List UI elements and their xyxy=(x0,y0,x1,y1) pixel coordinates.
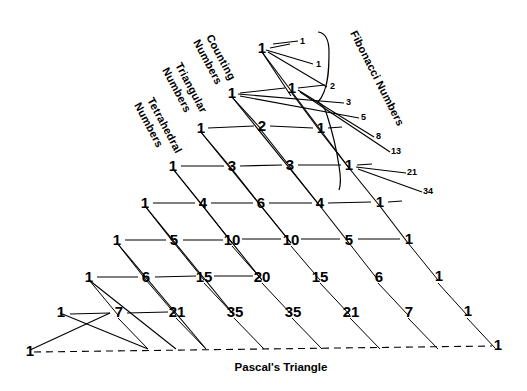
diagonal-label-fibonacci: Fibonacci Numbers xyxy=(348,28,407,127)
pascal-cell: 4 xyxy=(199,194,208,211)
pascal-cell: 2 xyxy=(258,117,266,134)
fibonacci-value: 1 xyxy=(300,36,305,46)
pascal-cell: 1 xyxy=(464,302,472,319)
pascal-cell: 21 xyxy=(343,303,360,320)
fibonacci-value: 1 xyxy=(316,59,321,69)
pascal-cell: 3 xyxy=(228,157,236,174)
pascal-cell: 35 xyxy=(285,303,302,320)
diagonal-label-counting: Counting Numbers xyxy=(191,32,238,86)
pascals-triangle-figure: 1 1 2 3 5 8 13 21 34 1 1 1 1 2 1 1 3 3 1 xyxy=(0,0,527,391)
fibonacci-value: 3 xyxy=(346,97,351,107)
pascal-cell: 1 xyxy=(376,193,384,210)
pascal-cell: 5 xyxy=(345,231,353,248)
pascal-row-2: 1 2 1 xyxy=(197,117,325,136)
pascal-row-6: 1 6 15 20 15 6 1 xyxy=(85,267,443,285)
pascal-cell: 1 xyxy=(258,39,266,56)
pascal-row-8: 1 1 xyxy=(26,336,502,359)
fibonacci-value: 5 xyxy=(361,112,366,122)
pascal-cell: 1 xyxy=(197,119,205,136)
pascal-cell: 6 xyxy=(142,268,150,285)
pascal-cell: 15 xyxy=(312,268,329,285)
pascal-cell: 1 xyxy=(405,230,413,247)
pascal-cell: 1 xyxy=(85,268,93,285)
fibonacci-value: 8 xyxy=(376,131,381,141)
pascal-cell: 1 xyxy=(288,79,296,96)
triangle-diagram: 1 1 2 3 5 8 13 21 34 1 1 1 1 2 1 1 3 3 1 xyxy=(0,0,527,391)
pascal-cell: 10 xyxy=(283,231,300,248)
pascal-cell: 1 xyxy=(141,194,149,211)
pascal-cell: 1 xyxy=(228,84,236,101)
diagonal-label-triangular: Triangular Numbers xyxy=(160,60,210,115)
fibonacci-value: 21 xyxy=(407,167,417,177)
pascal-cell: 5 xyxy=(170,231,178,248)
pascal-cell: 1 xyxy=(435,267,443,284)
base-dashed-line xyxy=(34,346,492,352)
pascal-cell: 1 xyxy=(317,119,325,136)
fibonacci-value: 13 xyxy=(391,146,401,156)
figure-caption: Pascal's Triangle xyxy=(235,361,328,373)
pascal-cell: 7 xyxy=(405,303,413,320)
diagonal-label-tetrahedral: Tetrahedral Numbers xyxy=(132,95,184,155)
pascal-cell: 7 xyxy=(115,303,123,320)
pascal-cell: 21 xyxy=(169,303,186,320)
pascal-cell: 4 xyxy=(316,194,325,211)
pascal-cell: 1 xyxy=(169,157,177,174)
pascal-cell: 1 xyxy=(26,342,34,359)
diagonal-label-line: Fibonacci Numbers xyxy=(348,28,407,127)
pascal-row-0: 1 xyxy=(258,39,266,56)
pascal-row-7: 1 7 21 35 35 21 7 1 xyxy=(57,302,472,320)
pascal-cell: 15 xyxy=(196,268,213,285)
pascal-cell: 20 xyxy=(254,268,271,285)
pascal-cell: 6 xyxy=(375,268,383,285)
pascal-cell: 35 xyxy=(227,303,244,320)
pascal-cell: 6 xyxy=(257,194,265,211)
pascal-cell: 1 xyxy=(494,336,502,353)
fibonacci-value: 2 xyxy=(330,81,335,91)
pascal-cell: 1 xyxy=(113,231,121,248)
pascal-cell: 1 xyxy=(345,156,353,173)
pascal-cell: 10 xyxy=(224,231,241,248)
pascal-cell: 1 xyxy=(57,303,65,320)
fibonacci-value: 34 xyxy=(423,186,433,196)
pascal-cell: 3 xyxy=(286,156,294,173)
